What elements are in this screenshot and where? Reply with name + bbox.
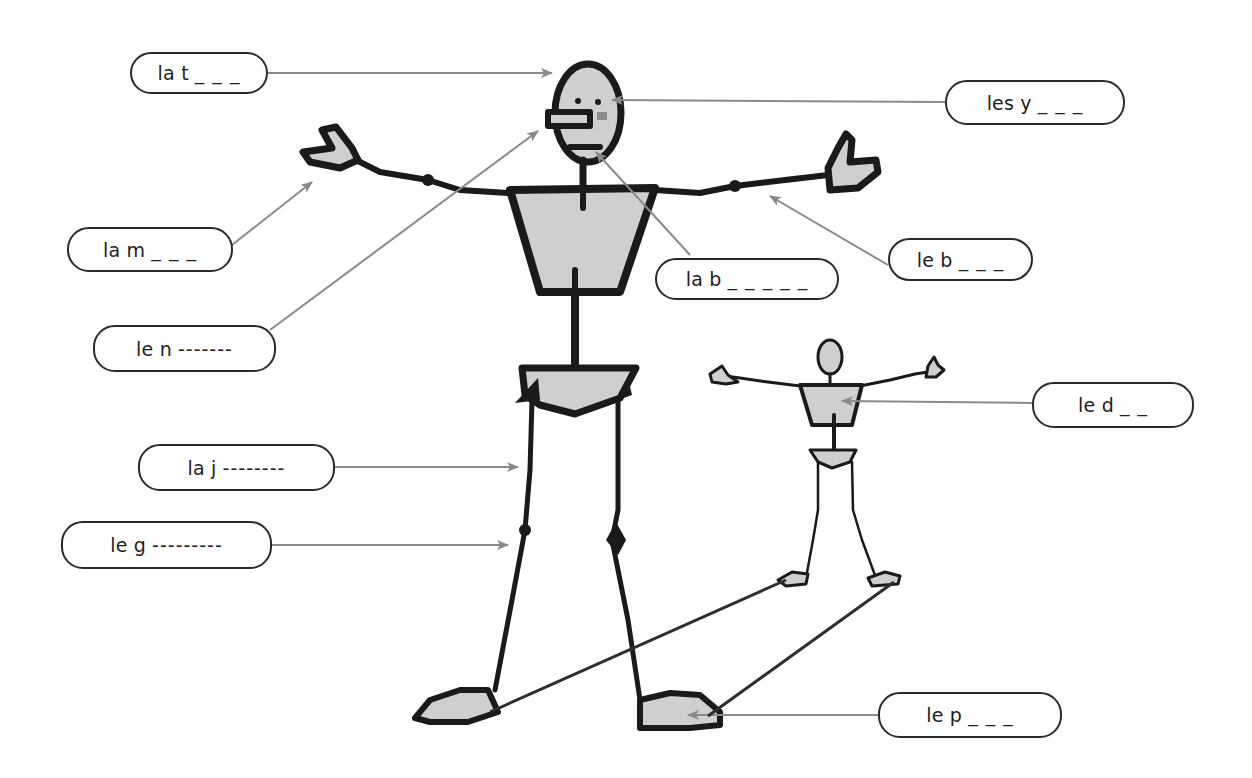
answer-blank[interactable]: ---------: [152, 534, 223, 556]
label-dos: le d_ _: [1032, 382, 1194, 428]
foot-left: [415, 690, 498, 722]
knee-right: [606, 522, 626, 555]
hand-right: [828, 134, 878, 190]
label-prefix: le g: [110, 534, 146, 556]
label-prefix: les y: [987, 92, 1032, 114]
large-stick-figure: [303, 64, 878, 728]
answer-blank[interactable]: _ _ _: [968, 704, 1014, 726]
label-yeux: les y_ _ _: [945, 80, 1125, 125]
eye-right: [595, 99, 601, 105]
answer-blank[interactable]: _ _: [1120, 394, 1148, 416]
label-prefix: la j: [188, 457, 217, 479]
label-jambe: la j--------: [138, 444, 335, 491]
label-nez: le n-------: [93, 325, 276, 372]
foot-right: [640, 693, 720, 728]
label-prefix: le p: [926, 704, 962, 726]
pointer-arrows: [232, 73, 1032, 715]
body-parts-diagram: la t_ _ _ les y_ _ _ la m_ _ _ la b_ _ _…: [0, 0, 1252, 778]
answer-blank[interactable]: --------: [223, 457, 286, 479]
label-pied: le p_ _ _: [878, 692, 1062, 738]
label-prefix: la b: [686, 268, 722, 290]
answer-blank[interactable]: -------: [178, 338, 233, 360]
label-prefix: le b: [917, 249, 953, 271]
nose: [548, 112, 590, 126]
label-prefix: le n: [136, 338, 172, 360]
small-stick-figure: [710, 340, 944, 586]
small-torso: [800, 385, 862, 425]
label-genou: le g---------: [61, 521, 272, 569]
arrow-dos: [842, 401, 1032, 403]
arrow-yeux: [612, 100, 945, 102]
label-bras: le b_ _ _: [888, 238, 1033, 281]
answer-blank[interactable]: _ _ _: [151, 239, 197, 261]
label-bouche: la b_ _ _ _ _: [655, 258, 839, 300]
answer-blank[interactable]: _ _ _: [1038, 92, 1084, 114]
label-tete: la t_ _ _: [130, 52, 268, 94]
arrow-main: [232, 182, 312, 245]
knee-left: [519, 524, 531, 536]
hand-left: [303, 127, 358, 168]
answer-blank[interactable]: _ _ _: [959, 249, 1005, 271]
eye-left: [575, 98, 581, 104]
arm-right: [655, 175, 828, 193]
arrow-bras: [770, 196, 888, 265]
label-main: la m_ _ _: [67, 227, 233, 272]
label-prefix: la m: [103, 239, 145, 261]
answer-blank[interactable]: _ _ _: [195, 62, 241, 84]
label-prefix: la t: [158, 62, 189, 84]
answer-blank[interactable]: _ _ _ _ _: [728, 268, 809, 290]
label-prefix: le d: [1078, 394, 1114, 416]
